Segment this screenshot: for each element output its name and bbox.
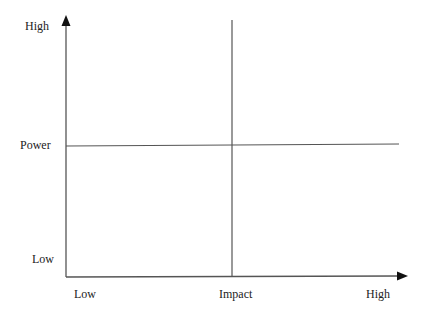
y-axis-title: Power bbox=[20, 138, 51, 152]
matrix-canvas bbox=[0, 0, 428, 314]
x-axis-arrow-icon bbox=[397, 272, 408, 281]
x-axis-low-label: Low bbox=[74, 287, 96, 301]
y-axis-low-label: Low bbox=[32, 252, 54, 266]
x-axis-title: Impact bbox=[219, 287, 252, 301]
y-axis-arrow-icon bbox=[62, 15, 71, 26]
x-axis-high-label: High bbox=[366, 287, 390, 301]
y-axis-high-label: High bbox=[25, 19, 49, 33]
